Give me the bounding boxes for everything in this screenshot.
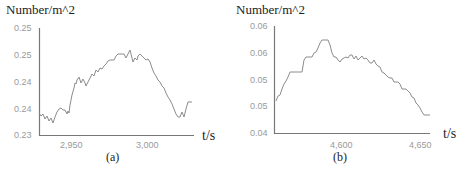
data-line-a (39, 50, 192, 123)
chart-plot-area (0, 0, 468, 177)
data-line-b (276, 40, 430, 115)
